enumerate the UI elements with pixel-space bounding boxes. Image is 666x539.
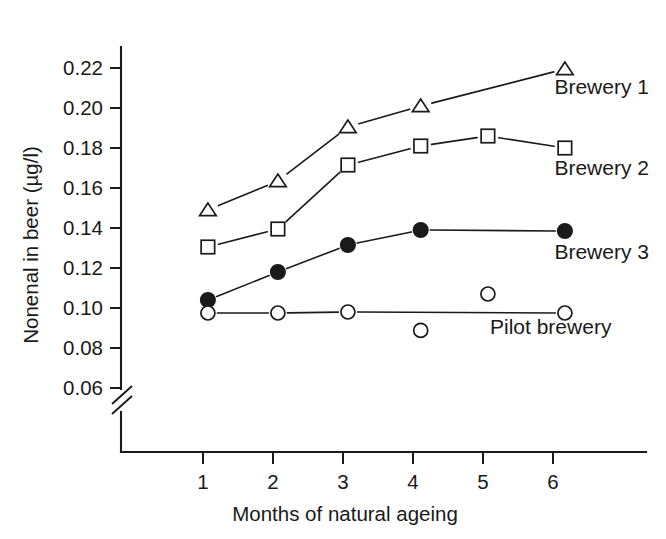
y-tick-marks: [110, 68, 121, 388]
data-point-open-triangle: [200, 203, 217, 216]
data-point-open-triangle: [557, 62, 574, 75]
data-point-open-square: [558, 141, 572, 155]
x-tick-label-1: 1: [197, 470, 208, 493]
data-point-open-square: [414, 139, 428, 153]
series-segment: [357, 232, 411, 243]
x-tick-label-6: 6: [547, 470, 558, 493]
data-point-filled-circle: [414, 223, 428, 237]
y-axis-title: Nonenal in beer (µg/l): [19, 146, 42, 344]
axis-break-icon: [112, 386, 132, 414]
series-segment: [287, 134, 339, 174]
data-point-open-triangle: [340, 120, 357, 133]
data-point-open-triangle: [270, 174, 287, 187]
series-segment: [499, 138, 554, 147]
x-tick-label-4: 4: [407, 470, 418, 493]
data-point-open-square: [271, 222, 285, 236]
series-segment: [286, 172, 340, 221]
series-2: [201, 129, 572, 254]
data-point-open-circle: [201, 306, 215, 320]
series-3: [201, 223, 572, 307]
series-segment: [359, 109, 410, 124]
y-tick-label-5: 0.12: [63, 256, 103, 279]
y-tick-label-2: 0.18: [63, 136, 103, 159]
series-segment: [430, 230, 555, 231]
data-point-open-circle: [271, 306, 285, 320]
data-point-filled-circle: [201, 293, 215, 307]
series-segment: [287, 248, 339, 268]
y-tick-label-6: 0.10: [63, 296, 103, 319]
series-segment: [287, 312, 338, 313]
series-segment: [217, 276, 269, 297]
series-1: [200, 62, 574, 216]
data-point-open-square: [201, 240, 215, 254]
series-label-1: Brewery 1: [554, 75, 649, 98]
series-segment: [219, 185, 268, 205]
data-point-filled-circle: [341, 238, 355, 252]
series-segment: [432, 72, 554, 103]
data-point-open-square: [481, 129, 495, 143]
series-label-2: Brewery 2: [554, 156, 649, 179]
data-point-open-circle: [414, 323, 428, 337]
series-label-3: Brewery 3: [554, 240, 649, 263]
series-segment: [432, 138, 477, 145]
data-point-open-circle: [481, 287, 495, 301]
x-tick-label-5: 5: [477, 470, 488, 493]
data-point-filled-circle: [271, 265, 285, 279]
x-tick-marks: [203, 452, 553, 464]
y-tick-label-4: 0.14: [63, 216, 103, 239]
series-layer: [200, 62, 574, 337]
chart-figure: 0.22 0.20 0.18 0.16 0.14 0.12 0.10 0.08 …: [0, 0, 666, 539]
line-chart-canvas: 0.22 0.20 0.18 0.16 0.14 0.12 0.10 0.08 …: [0, 0, 666, 539]
data-point-open-circle: [341, 305, 355, 319]
x-tick-label-2: 2: [267, 470, 278, 493]
series-segment: [357, 312, 555, 313]
series-label-4: Pilot brewery: [490, 315, 612, 338]
series-segment: [219, 232, 268, 245]
x-axis-title: Months of natural ageing: [232, 502, 458, 525]
data-point-open-triangle: [412, 99, 429, 112]
data-point-open-square: [341, 158, 355, 172]
y-tick-label-7: 0.08: [63, 336, 103, 359]
y-tick-label-1: 0.20: [63, 96, 103, 119]
x-tick-label-3: 3: [337, 470, 348, 493]
series-label-layer: Brewery 1Brewery 2Brewery 3Pilot brewery: [490, 75, 649, 338]
y-tick-label-8: 0.06: [63, 376, 103, 399]
data-point-filled-circle: [558, 224, 572, 238]
series-segment: [359, 149, 411, 162]
y-tick-label-0: 0.22: [63, 56, 103, 79]
y-tick-label-3: 0.16: [63, 176, 103, 199]
